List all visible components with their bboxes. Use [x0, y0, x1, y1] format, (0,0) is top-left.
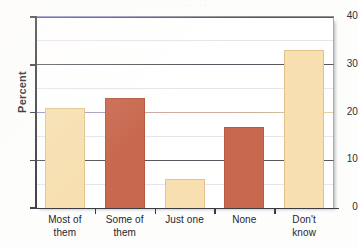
category-label-line2: them — [95, 227, 155, 240]
y-tick-label-0: 0 — [336, 201, 358, 212]
category-label: Some ofthem — [95, 214, 155, 239]
page-bleed-through-left — [1, 14, 29, 234]
category-label-line1: Just one — [165, 214, 204, 225]
y-axis-title: Percent — [16, 60, 28, 124]
y-tick-label-40: 40 — [336, 10, 358, 21]
category-label-line1: Most of — [48, 214, 82, 225]
bar — [165, 179, 205, 208]
y-axis-line — [35, 16, 37, 209]
y-tick-mark-10 — [30, 160, 36, 162]
category-label: None — [214, 214, 274, 227]
category-label-line1: Don't — [292, 214, 316, 225]
y-tick-mark-0 — [30, 207, 36, 209]
category-label: Most ofthem — [35, 214, 95, 239]
plot-top-border — [35, 16, 334, 17]
category-label-line2: them — [35, 227, 95, 240]
bar — [284, 50, 324, 208]
y-tick-label-20: 20 — [336, 106, 358, 117]
y-tick-label-10: 10 — [336, 153, 358, 164]
category-label-line1: None — [232, 214, 256, 225]
y-tick-mark-20 — [30, 112, 36, 114]
category-label-line1: Some of — [106, 214, 144, 225]
bar — [224, 127, 264, 208]
plot-right-border — [333, 16, 334, 208]
bar — [105, 98, 145, 208]
gridline-minor-35 — [35, 40, 334, 41]
bar-chart-figure: · · · · · · · · · · · · · 010203040 Most… — [0, 0, 358, 248]
category-label: Don'tknow — [274, 214, 334, 239]
bar — [45, 108, 85, 208]
y-tick-mark-40 — [30, 16, 36, 18]
y-tick-label-30: 30 — [336, 58, 358, 69]
y-tick-mark-30 — [30, 64, 36, 66]
page-bleed-through-top: · · · · · · · · · · · · · — [0, 0, 358, 12]
category-label-line2: know — [274, 227, 334, 240]
category-label: Just one — [155, 214, 215, 227]
